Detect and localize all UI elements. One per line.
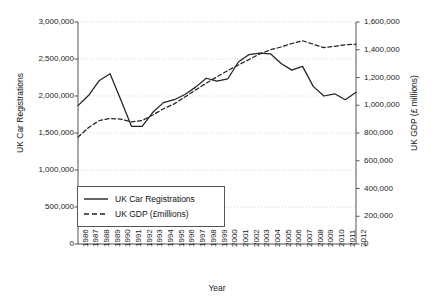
x-axis-tick-label: 2007 xyxy=(306,229,314,247)
x-axis-tick-label: 1989 xyxy=(114,229,122,247)
x-axis-tick-label: 1998 xyxy=(210,229,218,247)
y-axis-left-title: UK Car Registrations xyxy=(15,53,25,173)
x-axis-tick-label: 2000 xyxy=(231,229,239,247)
x-axis-tick-label: 1988 xyxy=(103,229,111,247)
x-axis-tick-label: 2004 xyxy=(274,229,282,247)
x-axis-tick-label: 2001 xyxy=(242,229,250,247)
legend-solid-line-icon xyxy=(83,194,109,204)
y-axis-right-title: UK GDP (£ millions) xyxy=(409,53,419,173)
legend-item-car-registrations: UK Car Registrations xyxy=(83,191,219,206)
x-axis-tick-label: 1994 xyxy=(167,229,175,247)
x-axis-tick-label: 2002 xyxy=(253,229,261,247)
x-axis-tick-label: 1986 xyxy=(82,229,90,247)
x-axis-tick-label: 2012 xyxy=(360,229,368,247)
x-axis-tick-label: 1992 xyxy=(146,229,154,247)
x-axis-tick-label: 1993 xyxy=(156,229,164,247)
x-axis-tick-label: 2003 xyxy=(263,229,271,247)
x-axis-tick-label: 2005 xyxy=(285,229,293,247)
legend-item-gdp: UK GDP (£millions) xyxy=(83,206,219,221)
x-axis-tick-label: 1990 xyxy=(124,229,132,247)
x-axis-tick-label: 2006 xyxy=(295,229,303,247)
x-axis-tick-label: 2009 xyxy=(327,229,335,247)
x-axis-tick-label: 2010 xyxy=(338,229,346,247)
x-axis-tick-label: 1996 xyxy=(188,229,196,247)
x-axis-tick-label: 1995 xyxy=(178,229,186,247)
x-axis-tick-label: 1997 xyxy=(199,229,207,247)
x-axis-title: Year xyxy=(0,283,434,293)
legend-label-gdp: UK GDP (£millions) xyxy=(115,209,189,219)
chart-legend: UK Car Registrations UK GDP (£millions) xyxy=(77,186,225,227)
x-axis-tick-label: 1999 xyxy=(221,229,229,247)
x-axis-ticks: 1986198719881989199019911992199319941995… xyxy=(0,0,434,305)
legend-dashed-line-icon xyxy=(83,209,109,219)
chart-container: 0500,0001,000,0001,500,0002,000,0002,500… xyxy=(0,0,434,305)
x-axis-tick-label: 1991 xyxy=(135,229,143,247)
legend-label-car-registrations: UK Car Registrations xyxy=(115,194,195,204)
x-axis-tick-label: 2011 xyxy=(349,230,357,247)
x-axis-tick-label: 1987 xyxy=(92,229,100,247)
x-axis-tick-label: 2008 xyxy=(317,229,325,247)
